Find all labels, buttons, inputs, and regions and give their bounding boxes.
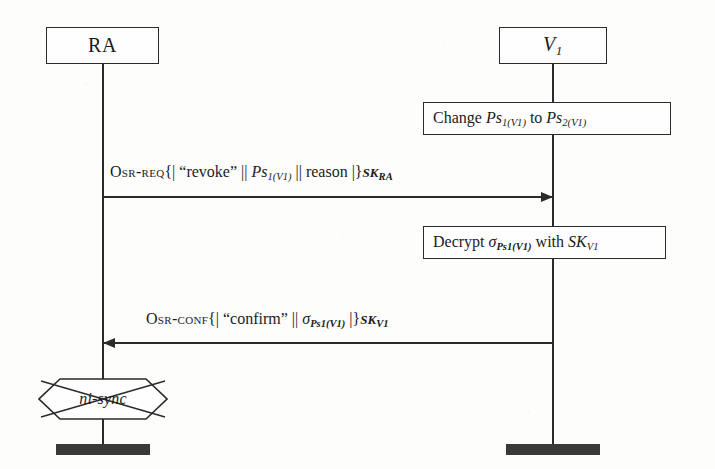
- message-arrow-osr-conf[interactable]: [103, 342, 553, 344]
- message-label-osr-req: Osr-req{| “revoke” || Ps1(V1) || reason …: [110, 163, 393, 182]
- action-box-decrypt-sigma-text: Decrypt σPs1(V1) with SKV1: [433, 233, 598, 252]
- actor-label-v1: V1: [543, 33, 563, 59]
- sequence-diagram-canvas: RA V1 Change Ps1(V1) to Ps2(V1) Osr-req{…: [0, 0, 715, 469]
- terminator-bar-ra: [56, 444, 150, 455]
- action-box-decrypt-sigma[interactable]: Decrypt σPs1(V1) with SKV1: [423, 226, 666, 259]
- action-box-change-ps[interactable]: Change Ps1(V1) to Ps2(V1): [423, 102, 671, 135]
- action-box-change-ps-text: Change Ps1(V1) to Ps2(V1): [433, 109, 586, 128]
- message-arrow-osr-req[interactable]: [103, 196, 553, 198]
- state-marker-ni-sync-label: ni-sync: [38, 378, 168, 420]
- arrowhead-osr-req-icon: [541, 192, 553, 202]
- actor-label-ra: RA: [88, 34, 117, 57]
- message-label-osr-conf: Osr-conf{| “confirm” || σPs1(V1) |}SKV1: [146, 310, 389, 329]
- actor-box-ra[interactable]: RA: [46, 27, 159, 64]
- actor-box-v1[interactable]: V1: [499, 27, 607, 64]
- arrowhead-osr-conf-icon: [103, 338, 115, 348]
- state-marker-ni-sync[interactable]: ni-sync: [38, 378, 168, 420]
- terminator-bar-v1: [506, 444, 600, 455]
